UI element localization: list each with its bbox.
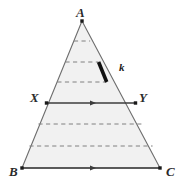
geometry-figure: A B C X Y k <box>0 0 184 187</box>
vertex-label-a: A <box>76 6 85 19</box>
segment-label-k: k <box>119 62 125 73</box>
point-marker-y <box>134 101 137 104</box>
point-label-y: Y <box>139 91 147 104</box>
vertex-marker-b <box>20 166 23 169</box>
vertex-label-c: C <box>166 165 175 178</box>
point-label-x: X <box>30 91 39 104</box>
vertex-marker-c <box>158 166 161 169</box>
triangle-diagram-svg <box>0 0 184 187</box>
vertex-label-b: B <box>9 165 18 178</box>
point-marker-x <box>45 101 48 104</box>
